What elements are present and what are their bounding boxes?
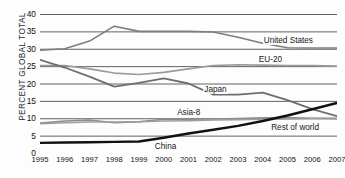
x-axis-tick: 1997	[81, 156, 98, 164]
y-axis-tick: 20	[27, 79, 36, 87]
series-label-asia-8: Asia-8	[176, 109, 201, 117]
y-axis-tick: 35	[27, 27, 36, 35]
x-axis-tick: 1999	[131, 156, 148, 164]
y-axis-tick: 10	[27, 114, 36, 122]
x-axis-tick: 2004	[254, 156, 271, 164]
y-axis-tick: 30	[27, 45, 36, 53]
x-axis-tick: 2001	[180, 156, 197, 164]
y-axis-tick: 40	[27, 10, 36, 18]
y-axis-tick: 25	[27, 62, 36, 70]
x-axis-tick: 2002	[205, 156, 222, 164]
series-label-eu-20: EU-20	[258, 56, 283, 64]
x-axis-tick: 1996	[56, 156, 73, 164]
series-line-eu-20	[40, 65, 337, 75]
x-axis-tick: 2005	[279, 156, 296, 164]
y-axis-tick: 5	[31, 131, 36, 139]
x-axis-tick: 2007	[329, 156, 345, 164]
x-axis-tick: 2003	[230, 156, 247, 164]
x-axis-tick: 1998	[106, 156, 123, 164]
chart-canvas	[40, 14, 337, 153]
series-label-china: China	[154, 143, 177, 151]
series-label-rest-of-world: Rest of world	[270, 124, 320, 132]
plot-area: 0510152025303540199519961997199819992000…	[40, 14, 337, 153]
x-axis-tick: 1995	[32, 156, 49, 164]
x-axis-tick: 2006	[304, 156, 321, 164]
y-axis-title: PERCENT GLOBAL TOTAL	[18, 0, 27, 137]
x-axis-tick: 2000	[155, 156, 172, 164]
series-label-japan: Japan	[203, 86, 227, 94]
series-label-united-states: United States	[263, 37, 314, 45]
y-axis-tick: 15	[27, 97, 36, 105]
